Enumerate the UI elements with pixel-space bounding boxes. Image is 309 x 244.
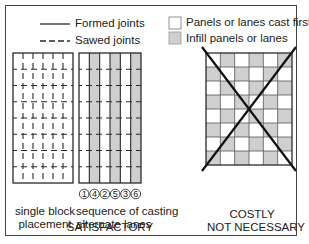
cast-first-panel xyxy=(249,67,263,81)
cast-first-panel xyxy=(278,123,292,137)
cast-first-panel xyxy=(220,95,234,109)
infill-swatch-icon xyxy=(169,32,181,44)
casting-sequence: 142536 xyxy=(79,189,140,199)
legend-sawed-joints: Sawed joints xyxy=(75,34,140,47)
legend-infill: Infill panels or lanes xyxy=(186,32,288,45)
sequence-number: 6 xyxy=(133,189,138,199)
caption-line: single block xyxy=(13,205,77,218)
caption-checkerboard: COSTLY NOT NECESSARY xyxy=(207,208,297,234)
infill-panel xyxy=(263,151,277,165)
sequence-number: 1 xyxy=(82,189,87,199)
cast-first-panel xyxy=(278,95,292,109)
checkerboard-grid xyxy=(202,47,296,171)
infill-panel xyxy=(263,95,277,109)
infill-panel xyxy=(206,95,220,109)
cast-first-swatch-icon xyxy=(169,17,181,29)
infill-panel xyxy=(278,81,292,95)
cast-first-panel xyxy=(263,109,277,123)
sequence-number: 4 xyxy=(92,189,97,199)
cast-first-panel xyxy=(206,81,220,95)
caption-line: NOT NECESSARY xyxy=(207,221,297,234)
cast-first-panel xyxy=(235,53,249,67)
infill-panel xyxy=(235,151,249,165)
sequence-number: 5 xyxy=(113,189,118,199)
legend-formed-joints: Formed joints xyxy=(75,17,145,30)
infill-panel xyxy=(220,53,234,67)
infill-panel xyxy=(206,123,220,137)
cast-first-panel xyxy=(206,109,220,123)
cast-first-panel xyxy=(249,151,263,165)
infill-panel xyxy=(249,137,263,151)
caption-line: COSTLY xyxy=(207,208,297,221)
alternate-lanes-grid xyxy=(79,53,141,183)
infill-panel xyxy=(249,53,263,67)
sequence-number: 3 xyxy=(123,189,128,199)
cast-first-panel xyxy=(220,151,234,165)
infill-panel xyxy=(278,109,292,123)
sequence-number: 2 xyxy=(102,189,107,199)
infill-panel xyxy=(235,67,249,81)
legend-cast-first: Panels or lanes cast first xyxy=(186,16,309,29)
infill-panel xyxy=(220,109,234,123)
caption-line: sequence of casting xyxy=(76,205,146,218)
cast-first-panel xyxy=(235,137,249,151)
cast-first-panel xyxy=(263,53,277,67)
single-block-grid xyxy=(13,53,73,183)
verdict-satisfactory: SATISFACTORY xyxy=(40,221,180,234)
